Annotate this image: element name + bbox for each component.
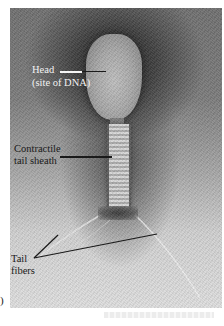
label-fibers: fibers <box>11 265 35 276</box>
panel-letter: ) <box>0 294 4 306</box>
faded-caption-text <box>104 312 214 318</box>
leader-lines-fibers <box>0 0 224 326</box>
label-tail: Tail <box>11 253 27 264</box>
